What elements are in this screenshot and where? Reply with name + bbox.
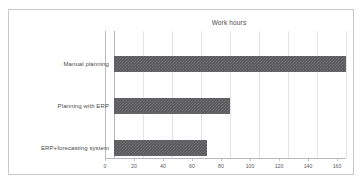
gridline xyxy=(172,31,173,158)
plot-area: Manual planningPlanning with ERPERP+fore… xyxy=(105,31,345,158)
gridline xyxy=(288,31,289,158)
x-tick-mark xyxy=(250,158,251,161)
chart-title: Work hours xyxy=(105,19,353,26)
gridline xyxy=(230,31,231,158)
category-label: Planning with ERP xyxy=(58,103,109,109)
gridline xyxy=(143,31,144,158)
gridline xyxy=(317,31,318,158)
x-tick-label: 100 xyxy=(246,163,255,169)
x-tick-mark xyxy=(221,158,222,161)
x-tick-label: 20 xyxy=(131,163,137,169)
x-axis-line xyxy=(105,158,346,159)
x-tick-label: 140 xyxy=(304,163,313,169)
gridline xyxy=(346,31,347,158)
bar-row: Manual planning xyxy=(114,56,346,72)
gridline xyxy=(114,31,115,158)
x-tick-label: 40 xyxy=(160,163,166,169)
gridline xyxy=(201,31,202,158)
bar-row: ERP+forecasting system xyxy=(114,140,207,156)
bar xyxy=(114,140,207,156)
x-tick-label: 160 xyxy=(333,163,342,169)
x-tick-mark xyxy=(337,158,338,161)
x-tick-label: 120 xyxy=(275,163,284,169)
x-tick-mark xyxy=(192,158,193,161)
x-tick-label: 80 xyxy=(218,163,224,169)
bar xyxy=(114,98,230,114)
x-tick-label: 0 xyxy=(104,163,107,169)
x-tick-mark xyxy=(308,158,309,161)
x-tick-mark xyxy=(279,158,280,161)
x-tick-label: 60 xyxy=(189,163,195,169)
x-tick-mark xyxy=(105,158,106,161)
category-label: Manual planning xyxy=(63,61,109,67)
chart-frame: Work hours Manual planningPlanning with … xyxy=(8,9,354,175)
bar xyxy=(114,56,346,72)
category-label: ERP+forecasting system xyxy=(41,145,109,151)
x-tick-mark xyxy=(163,158,164,161)
x-tick-mark xyxy=(134,158,135,161)
gridline xyxy=(259,31,260,158)
bar-row: Planning with ERP xyxy=(114,98,230,114)
